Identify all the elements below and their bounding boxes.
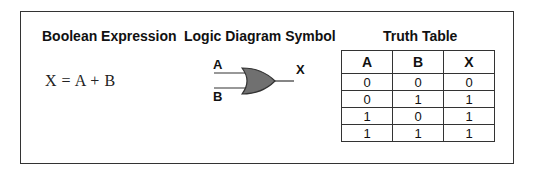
column-header: A — [342, 51, 393, 74]
table-cell: 1 — [444, 91, 495, 108]
column-header: X — [444, 51, 495, 74]
table-row: 0 0 0 — [342, 74, 495, 91]
table-row: 1 1 1 — [342, 125, 495, 142]
output-x-label: X — [296, 62, 305, 77]
table-cell: 0 — [393, 108, 444, 125]
column-header: B — [393, 51, 444, 74]
table-cell: 0 — [444, 74, 495, 91]
table-cell: 0 — [393, 74, 444, 91]
table-cell: 0 — [342, 91, 393, 108]
table-cell: 1 — [342, 108, 393, 125]
table-cell: 1 — [393, 91, 444, 108]
logic-diagram-heading: Logic Diagram Symbol — [184, 28, 336, 44]
truth-table: A B X 0 0 0 0 1 1 1 0 1 1 1 1 — [341, 50, 495, 142]
truth-table-heading: Truth Table — [383, 28, 457, 44]
table-cell: 1 — [342, 125, 393, 142]
table-header-row: A B X — [342, 51, 495, 74]
input-a-label: A — [213, 57, 222, 72]
table-cell: 0 — [342, 74, 393, 91]
table-cell: 1 — [444, 125, 495, 142]
input-b-label: B — [213, 89, 222, 104]
table-row: 1 0 1 — [342, 108, 495, 125]
boolean-expression-heading: Boolean Expression — [42, 28, 177, 44]
table-cell: 1 — [444, 108, 495, 125]
table-cell: 1 — [393, 125, 444, 142]
boolean-expression: X = A + B — [45, 72, 116, 90]
table-row: 0 1 1 — [342, 91, 495, 108]
